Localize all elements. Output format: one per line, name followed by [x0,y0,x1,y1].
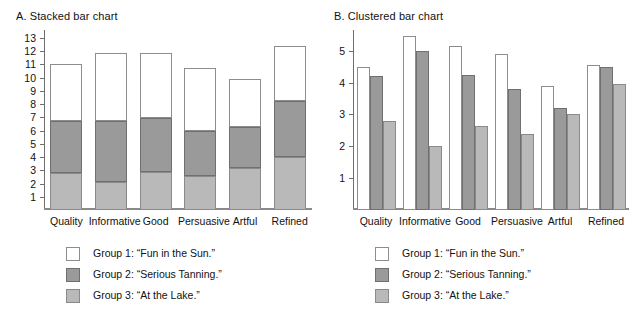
y-tick-label: 11 [16,59,36,70]
bar-segment-group1[interactable] [184,68,216,130]
y-tick-mark [40,78,44,79]
panel-clustered-bar-chart: B. Clustered bar chart 12345 QualityInfo… [320,0,637,334]
x-axis-category-label: Refined [267,216,312,227]
x-axis-category-label: Artful [223,216,268,227]
panel-b-title: B. Clustered bar chart [334,10,443,22]
panel-a-y-axis [44,30,45,210]
clustered-bar-group1[interactable] [449,46,462,210]
y-tick-mark [40,104,44,105]
x-axis-category-label: Informative [399,216,445,227]
y-tick-mark [40,170,44,171]
clustered-bar-group2[interactable] [554,108,567,210]
clustered-bar-group1[interactable] [587,65,600,210]
y-tick-mark [40,131,44,132]
bar-segment-group2[interactable] [274,101,306,157]
y-tick-label: 12 [16,46,36,57]
stacked-bar[interactable] [274,30,306,210]
legend-swatch-group3 [375,289,389,303]
x-axis-category-label: Quality [353,216,399,227]
bar-segment-group1[interactable] [229,79,261,127]
y-tick-mark [349,114,353,115]
y-tick-label: 4 [16,152,36,163]
x-axis-category-label: Artful [537,216,583,227]
panel-a-plot-area: 12345678910111213 QualityInformativeGood… [44,30,312,210]
bar-segment-group1[interactable] [274,46,306,102]
stacked-bar[interactable] [229,30,261,210]
clustered-bar-group2[interactable] [462,75,475,210]
y-tick-label: 5 [325,46,345,57]
clustered-bar-group3[interactable] [613,84,626,210]
stacked-bar[interactable] [50,30,82,210]
y-tick-label: 2 [325,141,345,152]
clustered-bar-group3[interactable] [475,126,488,210]
y-tick-mark [40,51,44,52]
y-tick-label: 8 [16,99,36,110]
y-tick-label: 3 [16,165,36,176]
x-axis-category-label: Quality [44,216,89,227]
legend-label: Group 2: “Serious Tanning.” [93,269,222,281]
panel-stacked-bar-chart: A. Stacked bar chart 12345678910111213 Q… [0,0,320,334]
clustered-bar-group1[interactable] [495,54,508,210]
y-tick-label: 3 [325,109,345,120]
y-tick-label: 9 [16,86,36,97]
bar-segment-group3[interactable] [184,176,216,210]
y-tick-mark [40,197,44,198]
bar-segment-group1[interactable] [95,53,127,121]
bar-segment-group3[interactable] [274,157,306,210]
y-tick-mark [349,146,353,147]
legend-label: Group 3: “At the Lake.” [93,290,200,302]
legend-label: Group 1: “Fun in the Sun.” [402,248,524,260]
clustered-bar-group1[interactable] [403,36,416,210]
bar-segment-group3[interactable] [229,168,261,210]
legend-swatch-group2 [66,268,80,282]
clustered-bar-group2[interactable] [370,76,383,210]
y-tick-label: 1 [325,173,345,184]
clustered-bar-group3[interactable] [521,134,534,210]
y-tick-label: 2 [16,179,36,190]
clustered-bar-group2[interactable] [416,51,429,210]
y-tick-mark [40,64,44,65]
bar-segment-group2[interactable] [50,121,82,173]
clustered-bar-group3[interactable] [383,121,396,210]
y-tick-mark [40,91,44,92]
clustered-bar-group3[interactable] [567,114,580,210]
clustered-bar-group1[interactable] [357,67,370,210]
panel-b-y-axis [353,30,354,210]
bar-segment-group3[interactable] [95,182,127,210]
legend-label: Group 2: “Serious Tanning.” [402,269,531,281]
legend-swatch-group1 [375,247,389,261]
clustered-bar-group3[interactable] [429,146,442,210]
bar-segment-group2[interactable] [229,127,261,169]
clustered-bar-group2[interactable] [508,89,521,210]
bar-segment-group2[interactable] [140,118,172,172]
y-tick-mark [349,83,353,84]
y-tick-mark [40,144,44,145]
y-tick-mark [349,51,353,52]
x-axis-category-label: Persuasive [491,216,537,227]
stacked-bar[interactable] [95,30,127,210]
bar-segment-group3[interactable] [140,172,172,210]
legend-swatch-group1 [66,247,80,261]
legend-swatch-group2 [375,268,389,282]
bar-segment-group1[interactable] [140,53,172,118]
x-axis-category-label: Persuasive [178,216,223,227]
bar-segment-group2[interactable] [95,121,127,182]
y-tick-label: 13 [16,33,36,44]
y-tick-label: 1 [16,192,36,203]
bar-segment-group3[interactable] [50,173,82,210]
y-tick-label: 7 [16,112,36,123]
y-tick-label: 4 [325,78,345,89]
stacked-bar[interactable] [184,30,216,210]
bar-segment-group2[interactable] [184,131,216,177]
bar-segment-group1[interactable] [50,64,82,121]
figure-root: A. Stacked bar chart 12345678910111213 Q… [0,0,637,334]
panel-b-plot-area: 12345 QualityInformativeGoodPersuasiveAr… [353,30,629,210]
clustered-bar-group2[interactable] [600,67,613,210]
y-tick-mark [349,178,353,179]
y-tick-mark [40,38,44,39]
clustered-bar-group1[interactable] [541,86,554,210]
y-tick-label: 5 [16,139,36,150]
x-axis-category-label: Refined [583,216,629,227]
y-tick-mark [40,184,44,185]
stacked-bar[interactable] [140,30,172,210]
